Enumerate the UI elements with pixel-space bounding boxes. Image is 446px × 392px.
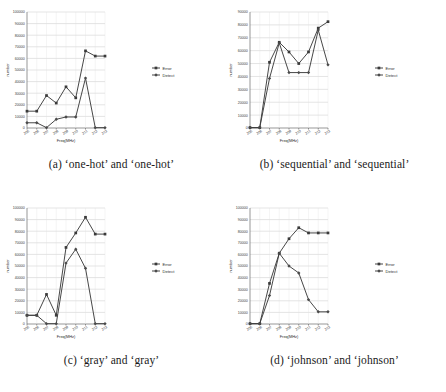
x-tick-label: 207 xyxy=(42,325,49,331)
data-point-detect xyxy=(307,71,310,74)
data-point-error xyxy=(65,85,68,88)
chart-d: 0100002000030000400005000060000700008000… xyxy=(223,196,446,356)
x-tick-label: 209 xyxy=(62,325,69,331)
data-point-error xyxy=(65,246,68,249)
data-point-error xyxy=(74,232,77,235)
x-tick-label: 209 xyxy=(285,129,292,135)
data-point-detect xyxy=(297,71,300,74)
y-tick-label: 100000 xyxy=(13,10,25,14)
x-tick-label: 206 xyxy=(256,325,263,331)
chart-svg-c: 0100002000030000400005000060000700008000… xyxy=(0,196,223,356)
data-point-detect xyxy=(268,294,271,297)
y-tick-label: 50000 xyxy=(15,264,25,268)
data-point-detect xyxy=(287,71,290,74)
x-tick-label: 213 xyxy=(101,129,108,135)
data-point-error xyxy=(104,233,107,236)
y-tick-label: 20000 xyxy=(238,101,248,105)
y-tick-label: 10000 xyxy=(15,311,25,315)
caption-c: (c) ‘gray’ and ‘gray’ xyxy=(0,354,223,366)
x-tick-label: 208 xyxy=(275,325,282,331)
y-tick-label: 0 xyxy=(246,322,248,326)
y-tick-label: 50000 xyxy=(238,62,248,66)
data-point-error xyxy=(45,94,48,97)
data-point-error xyxy=(327,20,330,23)
y-tick-label: 0 xyxy=(23,322,25,326)
y-tick-label: 50000 xyxy=(15,68,25,72)
panel-b: 0100002000030000400005000060000700008000… xyxy=(223,0,446,196)
y-tick-label: 80000 xyxy=(238,230,248,234)
x-tick-label: 213 xyxy=(324,129,331,135)
y-tick-label: 20000 xyxy=(15,103,25,107)
chart-c: 0100002000030000400005000060000700008000… xyxy=(0,196,223,356)
data-point-error xyxy=(104,55,107,58)
legend-item-detect[interactable]: Detect xyxy=(152,269,175,274)
x-tick-label: 207 xyxy=(265,325,272,331)
panel-c: 0100002000030000400005000060000700008000… xyxy=(0,196,223,392)
legend-label: Error xyxy=(386,66,396,71)
data-point-detect xyxy=(25,121,28,124)
data-point-detect xyxy=(103,126,106,129)
legend-item-error[interactable]: Error xyxy=(152,66,172,71)
caption-d: (d) ‘johnson’ and ‘johnson’ xyxy=(223,354,446,366)
panel-d: 0100002000030000400005000060000700008000… xyxy=(223,196,446,392)
legend-item-error[interactable]: Error xyxy=(375,66,395,71)
legend-label: Detect xyxy=(163,73,176,78)
legend-item-detect[interactable]: Detect xyxy=(375,269,398,274)
y-tick-label: 20000 xyxy=(238,299,248,303)
legend-item-detect[interactable]: Detect xyxy=(152,73,175,78)
x-tick-label: 212 xyxy=(314,129,321,135)
data-point-error xyxy=(74,96,77,99)
y-tick-label: 30000 xyxy=(238,88,248,92)
y-tick-label: 100000 xyxy=(13,206,25,210)
x-axis-title: Freq(MHz) xyxy=(280,334,299,339)
y-tick-label: 70000 xyxy=(15,45,25,49)
data-point-detect xyxy=(84,76,87,79)
y-tick-label: 90000 xyxy=(15,218,25,222)
x-tick-label: 208 xyxy=(52,129,59,135)
y-tick-label: 30000 xyxy=(238,288,248,292)
x-tick-label: 211 xyxy=(305,325,312,331)
y-tick-label: 60000 xyxy=(15,253,25,257)
x-tick-label: 210 xyxy=(72,325,79,331)
y-tick-label: 0 xyxy=(246,126,248,130)
caption-a: (a) ‘one-hot’ and ‘one-hot’ xyxy=(0,158,223,170)
data-point-error xyxy=(268,61,271,64)
x-tick-label: 213 xyxy=(324,325,331,331)
data-point-detect xyxy=(74,115,77,118)
data-point-error xyxy=(288,237,291,240)
x-tick-label: 212 xyxy=(91,325,98,331)
x-tick-label: 213 xyxy=(101,325,108,331)
legend-item-error[interactable]: Error xyxy=(152,262,172,267)
legend-label: Error xyxy=(163,66,173,71)
y-tick-label: 10000 xyxy=(238,114,248,118)
y-axis-title: number xyxy=(228,63,233,77)
y-tick-label: 80000 xyxy=(15,230,25,234)
y-tick-label: 50000 xyxy=(238,264,248,268)
chart-a: 0100002000030000400005000060000700008000… xyxy=(0,0,223,160)
data-point-error xyxy=(327,232,330,235)
y-axis-title: number xyxy=(5,63,10,77)
data-point-error xyxy=(288,51,291,54)
legend-label: Error xyxy=(163,262,173,267)
chart-svg-d: 0100002000030000400005000060000700008000… xyxy=(223,196,446,356)
y-tick-label: 60000 xyxy=(15,57,25,61)
figure-grid: 0100002000030000400005000060000700008000… xyxy=(0,0,446,392)
y-tick-label: 70000 xyxy=(15,241,25,245)
x-tick-label: 207 xyxy=(42,129,49,135)
data-point-error xyxy=(94,233,97,236)
y-tick-label: 30000 xyxy=(15,288,25,292)
caption-b: (b) ‘sequential’ and ‘sequential’ xyxy=(223,158,446,170)
y-axis-title: number xyxy=(228,259,233,273)
x-axis-title: Freq(MHz) xyxy=(280,138,299,143)
legend-item-detect[interactable]: Detect xyxy=(375,73,398,78)
x-tick-label: 206 xyxy=(33,325,40,331)
y-tick-label: 30000 xyxy=(15,92,25,96)
legend-item-error[interactable]: Error xyxy=(375,262,395,267)
y-tick-label: 0 xyxy=(23,126,25,130)
x-axis-title: Freq(MHz) xyxy=(57,138,76,143)
y-tick-label: 70000 xyxy=(238,241,248,245)
y-tick-label: 40000 xyxy=(238,75,248,79)
x-tick-label: 210 xyxy=(295,325,302,331)
y-tick-label: 20000 xyxy=(15,299,25,303)
data-point-error xyxy=(268,282,271,285)
